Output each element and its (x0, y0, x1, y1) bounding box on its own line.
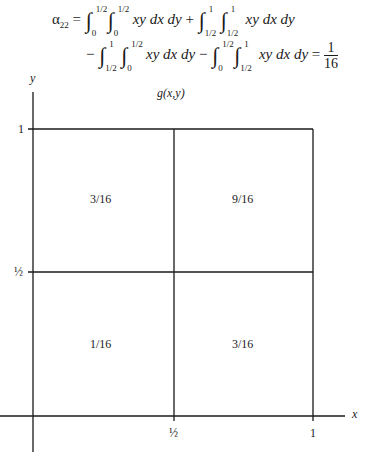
x-tick-half: ½ (169, 426, 178, 441)
cell-bottom-left: 1/16 (90, 337, 111, 352)
cell-top-left: 3/16 (90, 192, 111, 207)
function-label: g(x,y) (157, 86, 185, 101)
grid-figure (0, 0, 366, 452)
cell-bottom-right: 3/16 (232, 337, 253, 352)
cell-top-right: 9/16 (232, 192, 253, 207)
y-tick-1: 1 (18, 122, 24, 137)
x-tick-1: 1 (310, 426, 316, 441)
y-tick-half: ½ (14, 265, 23, 280)
x-axis-label: x (352, 407, 357, 422)
y-axis-label: y (30, 71, 35, 86)
